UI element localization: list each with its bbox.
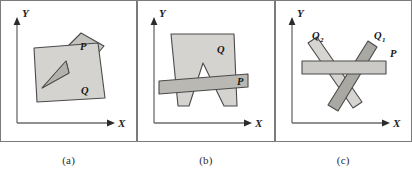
captions-row: (a) (b) (c): [0, 142, 412, 178]
y-axis-label: Y: [159, 7, 167, 19]
shape-label-p: P: [390, 48, 397, 59]
x-axis-label: X: [254, 117, 263, 129]
y-axis-arrowhead: [151, 17, 158, 25]
x-axis-label: X: [117, 117, 126, 129]
panel-b: Y X Q P: [137, 0, 274, 142]
panels-row: Y X Q P Y: [0, 0, 412, 142]
shape-label-q1: Q: [374, 30, 382, 41]
x-axis-arrowhead: [382, 120, 390, 127]
x-axis-arrowhead: [244, 120, 252, 127]
y-axis-label: Y: [297, 7, 305, 19]
caption-a: (a): [0, 142, 137, 178]
caption-b: (b): [137, 142, 274, 178]
shape-label-p: P: [237, 76, 244, 87]
shape-label-q: Q: [81, 85, 89, 96]
shape-label-q1-subscript: 1: [382, 36, 386, 44]
x-axis-arrowhead: [107, 120, 115, 127]
shape-label-p: P: [80, 41, 87, 52]
shape-label-q: Q: [217, 44, 225, 55]
caption-c: (c): [275, 142, 412, 178]
figure-container: Y X Q P Y: [0, 0, 412, 178]
y-axis-arrowhead: [14, 17, 21, 25]
shape-q-polygon: [34, 43, 105, 102]
shape-label-q2: Q: [312, 30, 320, 41]
y-axis-arrowhead: [288, 17, 295, 25]
panel-a-drawing: Y X Q P: [1, 1, 136, 141]
shape-label-q2-subscript: 2: [319, 36, 324, 44]
shape-p-polygon: [302, 61, 386, 74]
y-axis-label: Y: [22, 7, 30, 19]
panel-a: Y X Q P: [0, 0, 137, 142]
panel-c: Y X Q 2 Q 1 P: [275, 0, 412, 142]
panel-c-drawing: Y X Q 2 Q 1 P: [276, 1, 412, 141]
panel-b-drawing: Y X Q P: [138, 1, 273, 141]
shape-q-polygon: [171, 34, 237, 106]
x-axis-label: X: [392, 117, 401, 129]
